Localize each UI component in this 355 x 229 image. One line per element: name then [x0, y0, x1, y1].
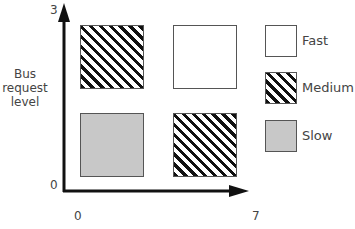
- cell-bottom-right-medium: [173, 113, 237, 177]
- legend-label-medium: Medium: [302, 81, 354, 94]
- y-tick-bottom: 0: [50, 179, 58, 191]
- cell-top-right-fast: [173, 25, 237, 89]
- y-axis-label-line-1: Bus: [0, 67, 50, 81]
- legend-swatch-medium: [265, 72, 297, 104]
- y-axis-label: Bus request level: [0, 67, 50, 109]
- cell-top-left-medium: [80, 25, 144, 89]
- x-tick-left: 0: [74, 210, 82, 222]
- legend-label-fast: Fast: [302, 34, 328, 47]
- legend-label-slow: Slow: [302, 129, 332, 142]
- y-axis-label-line-2: request: [0, 81, 50, 95]
- cell-bottom-left-slow: [80, 113, 144, 177]
- y-tick-top: 3: [50, 4, 58, 16]
- x-tick-right: 7: [252, 210, 260, 222]
- legend-swatch-fast: [265, 25, 297, 57]
- y-axis-arrowhead-icon: [58, 3, 70, 22]
- x-axis-arrowhead-icon: [229, 185, 249, 197]
- legend-swatch-slow: [265, 120, 297, 152]
- y-axis-label-line-3: level: [0, 95, 50, 109]
